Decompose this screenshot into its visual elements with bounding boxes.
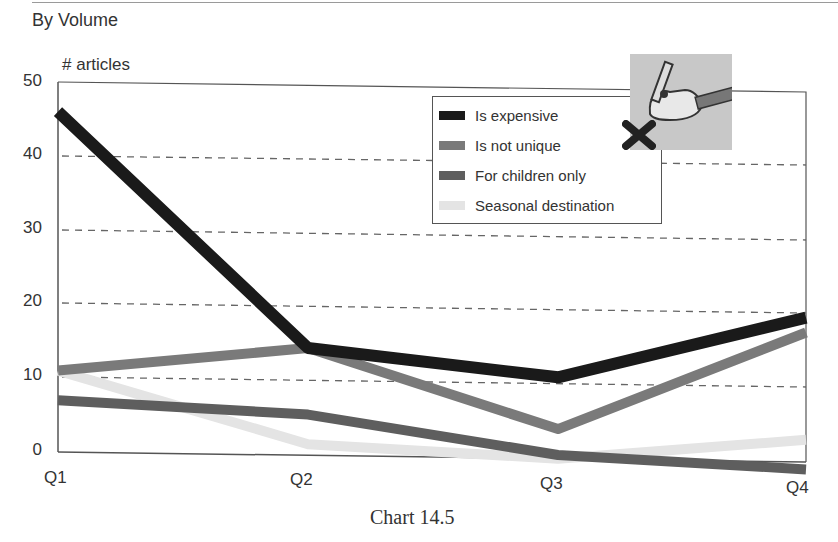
series-line-for-children-only — [58, 400, 806, 469]
legend-swatch — [439, 171, 465, 180]
legend-label: Is expensive — [475, 107, 558, 124]
x-tick-q2: Q2 — [290, 470, 313, 490]
legend-swatch — [439, 141, 465, 150]
legend-swatch — [439, 111, 465, 120]
legend-item-is-expensive: Is expensive — [439, 105, 558, 125]
x-mark-icon — [622, 120, 656, 150]
x-tick-q1: Q1 — [44, 468, 67, 488]
chart-caption: Chart 14.5 — [370, 506, 454, 529]
legend-label: Seasonal destination — [475, 197, 614, 214]
legend-item-seasonal-destination: Seasonal destination — [439, 195, 614, 215]
legend-label: For children only — [475, 167, 586, 184]
legend-item-is-not-unique: Is not unique — [439, 135, 561, 155]
x-tick-q4: Q4 — [786, 478, 809, 498]
x-tick-q3: Q3 — [540, 474, 563, 494]
legend-item-for-children-only: For children only — [439, 165, 586, 185]
legend-swatch — [439, 201, 465, 210]
chart-legend: Is expensive Is not unique For children … — [432, 96, 662, 224]
legend-label: Is not unique — [475, 137, 561, 154]
